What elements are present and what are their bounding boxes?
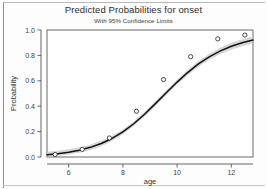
x-tick-label: 12 [227, 169, 235, 176]
y-tick-label: 0.0 [25, 154, 35, 161]
y-tick-label: 0.4 [25, 103, 35, 110]
y-tick-label: 1.0 [25, 27, 35, 34]
chart-figure: Predicted Probabilities for onset With 9… [0, 0, 267, 189]
y-tick-label: 0.8 [25, 52, 35, 59]
y-axis: 0.00.20.40.60.81.0 [25, 27, 41, 161]
plot-canvas: 681012 0.00.20.40.60.81.0 ageProbability [0, 0, 267, 189]
x-tick-label: 6 [67, 169, 71, 176]
x-axis-title: age [144, 177, 157, 186]
y-tick-label: 0.6 [25, 77, 35, 84]
x-tick-label: 10 [173, 169, 181, 176]
x-axis: 681012 [47, 164, 253, 176]
screenshot-root: Predicted Probabilities for onset With 9… [0, 0, 267, 189]
x-tick-label: 8 [121, 169, 125, 176]
y-axis-title: Probability [9, 76, 18, 111]
y-tick-label: 0.2 [25, 128, 35, 135]
